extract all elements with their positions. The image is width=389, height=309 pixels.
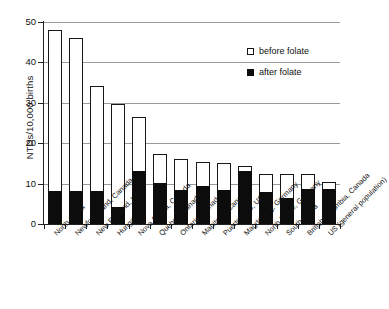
- bar: [322, 22, 336, 224]
- bar: [69, 22, 83, 224]
- y-tick-mark: [38, 184, 43, 185]
- y-tick-label: 30: [2, 98, 36, 108]
- legend-item-before-folate: before folate: [247, 44, 309, 59]
- gridline: [44, 103, 340, 104]
- y-tick-mark: [38, 62, 43, 63]
- bar: [48, 22, 62, 224]
- filled-square-icon: [247, 69, 254, 76]
- y-tick-mark: [38, 143, 43, 144]
- open-square-icon: [247, 48, 254, 55]
- y-tick-label: 20: [2, 138, 36, 148]
- gridline: [44, 22, 340, 23]
- y-tick-mark: [38, 224, 43, 225]
- bar: [153, 22, 167, 224]
- y-tick-mark: [38, 22, 43, 23]
- y-tick-label: 50: [2, 17, 36, 27]
- legend-item-after-folate: after folate: [247, 65, 309, 80]
- bar-segment-after-folate: [48, 191, 62, 224]
- chart-legend: before folate after folate: [247, 44, 309, 86]
- gridline: [44, 143, 340, 144]
- y-tick-label: 0: [2, 219, 36, 229]
- y-tick-mark: [38, 103, 43, 104]
- legend-label-before-folate: before folate: [259, 47, 309, 56]
- y-tick-label: 40: [2, 57, 36, 67]
- legend-label-after-folate: after folate: [259, 68, 302, 77]
- y-tick-label: 10: [2, 179, 36, 189]
- bar: [90, 22, 104, 224]
- x-tick-mark: [44, 225, 45, 229]
